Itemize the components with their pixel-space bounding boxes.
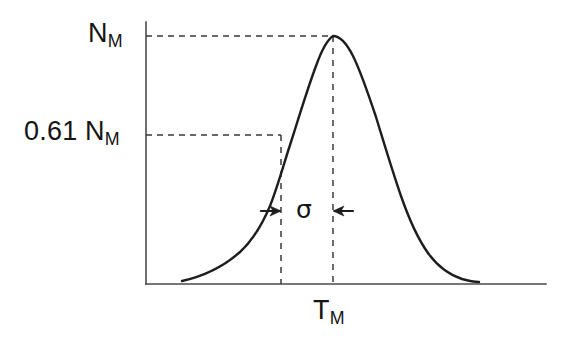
y-axis-peak-label-subscript: M	[108, 31, 123, 51]
sigma-width-label: σ	[296, 197, 312, 222]
x-axis-peak-label-subscript: M	[330, 308, 345, 328]
distribution-curve	[182, 36, 479, 282]
y-axis-peak-label: NM	[88, 20, 123, 47]
distribution-figure: NM 0.61 NM TM σ	[0, 0, 567, 344]
x-axis-peak-label: TM	[313, 297, 345, 324]
y-axis-peak-label-main: N	[88, 18, 108, 48]
plot-canvas	[0, 0, 567, 344]
y-axis-sigma-level-label-subscript: M	[105, 129, 120, 149]
y-axis-sigma-level-label: 0.61 NM	[24, 118, 120, 145]
y-axis-sigma-level-label-main: 0.61 N	[24, 116, 105, 146]
x-axis-peak-label-main: T	[313, 295, 330, 325]
